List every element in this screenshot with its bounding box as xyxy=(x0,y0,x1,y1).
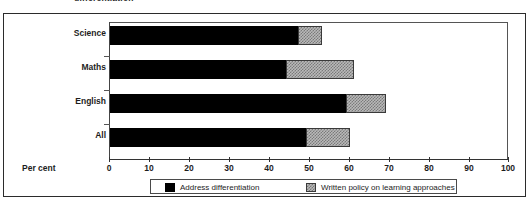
x-tick-label-30: 30 xyxy=(224,163,233,173)
x-tick-label-60: 60 xyxy=(344,163,353,173)
bar-segment-written-policy xyxy=(286,60,354,79)
chart-legend: Address differentiation Written policy o… xyxy=(150,179,457,194)
legend-swatch-solid-icon xyxy=(165,183,175,192)
x-tick-label-50: 50 xyxy=(304,163,313,173)
category-axis-labels: Science Maths English All xyxy=(6,14,106,174)
legend-label-written-policy: Written policy on learning approaches xyxy=(321,183,455,192)
category-tick-1 xyxy=(104,56,110,57)
x-tick-label-100: 100 xyxy=(501,163,515,173)
legend-label-address-differentiation: Address differentiation xyxy=(180,183,259,192)
legend-entry-written-policy: Written policy on learning approaches xyxy=(306,182,455,193)
x-tick-70 xyxy=(389,157,390,162)
x-tick-40 xyxy=(269,157,270,162)
category-tick-3 xyxy=(104,124,110,125)
bar-segment-address-differentiation xyxy=(110,26,298,45)
x-tick-label-10: 10 xyxy=(144,163,153,173)
category-tick-2 xyxy=(104,90,110,91)
x-tick-90 xyxy=(469,157,470,162)
legend-entry-address-differentiation: Address differentiation xyxy=(165,182,259,193)
category-label-science: Science xyxy=(10,28,106,38)
x-tick-label-80: 80 xyxy=(424,163,433,173)
bar-segment-written-policy xyxy=(298,26,322,45)
bar-segment-written-policy xyxy=(306,128,350,147)
figure-caption: differentiation xyxy=(74,0,134,3)
x-tick-10 xyxy=(149,157,150,162)
x-tick-80 xyxy=(429,157,430,162)
bar-segment-address-differentiation xyxy=(110,94,346,113)
bar-segment-written-policy xyxy=(346,94,386,113)
x-tick-label-40: 40 xyxy=(264,163,273,173)
legend-swatch-hatch-icon xyxy=(306,183,316,192)
x-tick-20 xyxy=(189,157,190,162)
bar-segment-address-differentiation xyxy=(110,60,286,79)
value-axis-title: Per cent xyxy=(22,163,56,173)
category-label-english: English xyxy=(10,96,106,106)
x-tick-50 xyxy=(309,157,310,162)
caption-clip: differentiation xyxy=(0,0,529,14)
x-tick-label-70: 70 xyxy=(384,163,393,173)
category-label-maths: Maths xyxy=(10,62,106,72)
x-tick-label-90: 90 xyxy=(464,163,473,173)
category-label-all: All xyxy=(10,130,106,140)
x-tick-60 xyxy=(349,157,350,162)
x-tick-30 xyxy=(229,157,230,162)
x-tick-label-20: 20 xyxy=(184,163,193,173)
x-tick-label-0: 0 xyxy=(107,163,112,173)
x-tick-0 xyxy=(109,157,110,162)
bar-segment-address-differentiation xyxy=(110,128,306,147)
chart-frame: Science Maths English All Per cent 0 10 … xyxy=(3,13,526,197)
x-tick-100 xyxy=(508,157,509,162)
